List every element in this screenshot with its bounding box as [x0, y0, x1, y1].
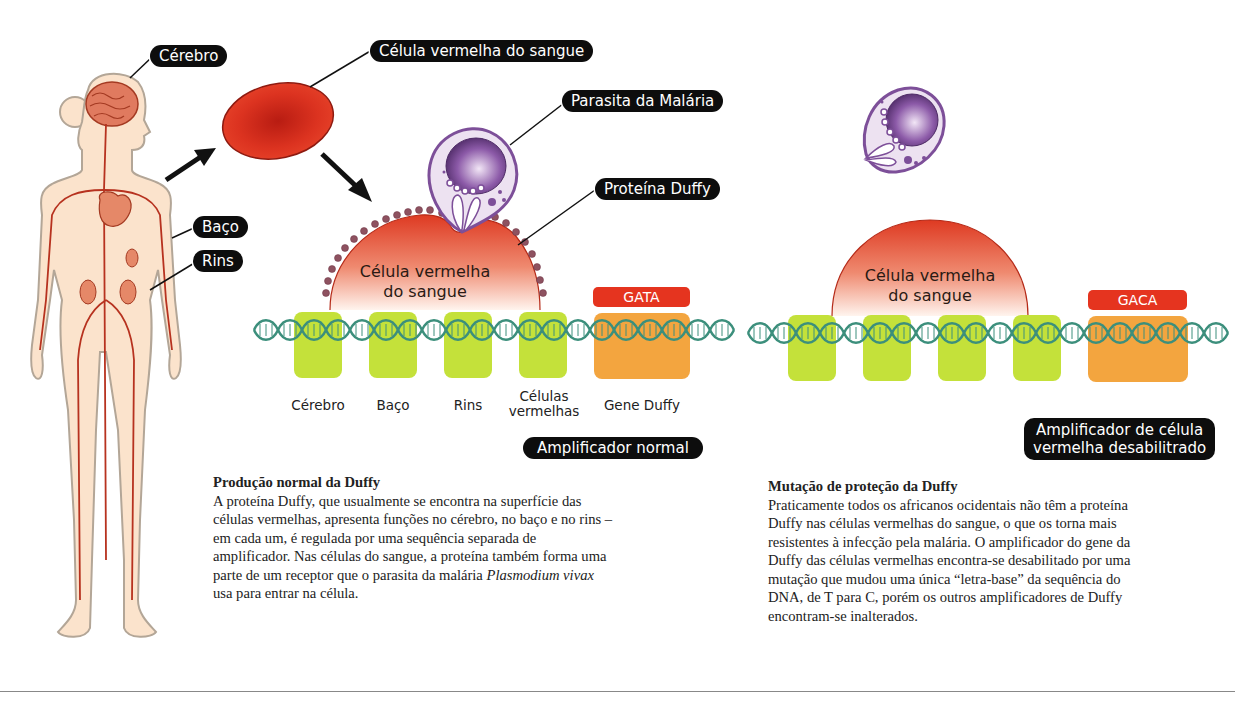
gene-label-brain: Cérebro: [286, 398, 350, 413]
label-red-blood-cell: Célula vermelha do sangue: [370, 40, 593, 62]
gene-label-kidneys: Rins: [436, 398, 500, 413]
spleen-icon: [126, 249, 138, 267]
sequence-gata: GATA: [593, 287, 690, 307]
sequence-gaca: GACA: [1088, 290, 1187, 310]
left-caption-title: Produção normal da Duffy: [213, 473, 733, 492]
kidney-right-icon: [120, 280, 136, 304]
right-caption-title: Mutação de proteção da Duffy: [768, 477, 1235, 496]
label-malaria-parasite: Parasita da Malária: [562, 90, 723, 112]
right-cell-text: Célula vermelha do sangue: [845, 266, 1015, 306]
kidney-left-icon: [80, 280, 96, 304]
dna-helix-right: [748, 319, 1228, 347]
arrow-up-right-icon: [166, 148, 216, 180]
dna-helix-left: [254, 316, 724, 344]
malaria-parasite-icon: [429, 129, 517, 232]
label-kidneys: Rins: [193, 250, 243, 272]
left-caption: Produção normal da Duffy A proteína Duff…: [213, 473, 733, 603]
left-cell-text: Célula vermelha do sangue: [340, 262, 510, 302]
badge-disabled-enhancer: Amplificador de célula vermelha desabili…: [1024, 418, 1215, 460]
gene-label-duffy: Gene Duffy: [590, 398, 694, 413]
gene-label-spleen: Baço: [361, 398, 425, 413]
gene-label-red-cells: Células vermelhas: [508, 389, 580, 419]
bottom-divider: [0, 691, 1235, 692]
badge-normal-enhancer: Amplificador normal: [523, 437, 703, 459]
malaria-parasite-free-icon: [864, 88, 944, 172]
right-caption: Mutação de proteção da Duffy Praticament…: [768, 477, 1235, 625]
label-duffy-protein: Proteína Duffy: [595, 178, 720, 200]
